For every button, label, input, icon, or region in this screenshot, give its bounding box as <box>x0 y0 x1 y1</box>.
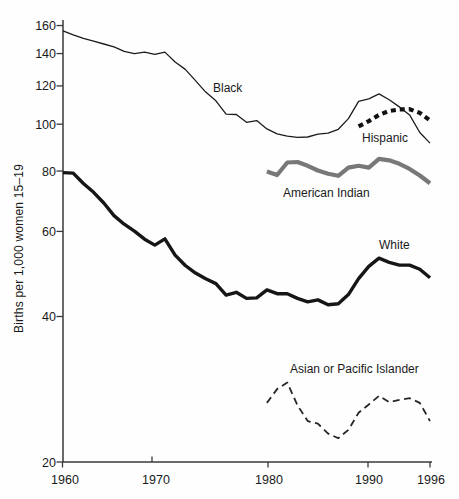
series-hispanic-line <box>359 109 430 126</box>
y-tick-label: 120 <box>35 79 56 93</box>
x-tick-label: 1960 <box>51 473 79 487</box>
series-asian-or-pacific-islander-label: Asian or Pacific Islander <box>290 362 419 376</box>
x-tick-label: 1996 <box>417 473 445 487</box>
axes <box>63 20 432 462</box>
y-tick-label: 140 <box>35 47 56 61</box>
series-white-line <box>63 173 430 305</box>
series-american-indian-line <box>267 159 430 183</box>
y-tick-label: 60 <box>42 225 56 239</box>
teen-birth-rate-figure: 1601401201008060402019601970198019901996… <box>0 0 459 499</box>
x-tick-label: 1980 <box>255 473 283 487</box>
y-tick-label: 40 <box>42 310 56 324</box>
series-black-label: Black <box>213 81 243 95</box>
series-white-label: White <box>379 238 410 252</box>
y-tick-label: 80 <box>42 165 56 179</box>
y-tick-label: 100 <box>35 118 56 132</box>
x-tick-label: 1990 <box>355 473 383 487</box>
y-tick-label: 160 <box>35 19 56 33</box>
series-asian-or-pacific-islander-line <box>267 383 430 439</box>
series-black-line <box>63 31 430 143</box>
series-american-indian-label: American Indian <box>283 186 370 200</box>
line-chart: 1601401201008060402019601970198019901996… <box>0 0 459 499</box>
x-tick-label: 1970 <box>142 473 170 487</box>
y-tick-label: 20 <box>42 456 56 470</box>
y-axis-title: Births per 1,000 women 15–19 <box>6 150 32 346</box>
series-hispanic-label: Hispanic <box>362 131 408 145</box>
